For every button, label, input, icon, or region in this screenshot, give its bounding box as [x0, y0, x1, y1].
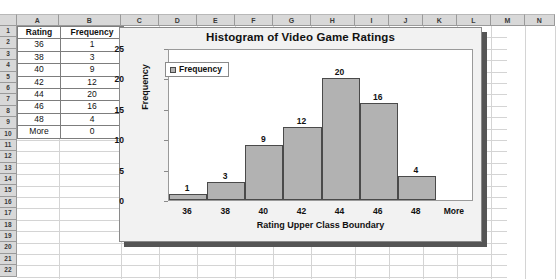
- column-header-i[interactable]: I: [355, 14, 389, 26]
- column-header-a[interactable]: A: [17, 14, 59, 26]
- row-header-column: 12345678910111213141516171819202122: [0, 26, 17, 277]
- row-header-7[interactable]: 7: [0, 94, 17, 105]
- table-row: 4420: [18, 89, 124, 101]
- column-header-c[interactable]: C: [121, 14, 159, 26]
- select-all-corner[interactable]: [0, 14, 17, 26]
- x-axis-tick-label: 42: [297, 206, 306, 216]
- chart-legend[interactable]: Frequency: [165, 62, 229, 77]
- table-cell[interactable]: 36: [18, 39, 61, 51]
- column-header-h[interactable]: H: [311, 14, 355, 26]
- column-header-m[interactable]: M: [491, 14, 525, 26]
- y-axis-tick-mark: [164, 79, 168, 80]
- table-header-cell[interactable]: Rating: [18, 27, 61, 39]
- column-header-n[interactable]: N: [525, 14, 555, 26]
- y-axis-tick-label: 15: [102, 105, 124, 115]
- column-header-e[interactable]: E: [197, 14, 235, 26]
- y-axis-tick-label: 0: [102, 196, 124, 206]
- row-header-4[interactable]: 4: [0, 60, 17, 71]
- table-cell[interactable]: 38: [18, 51, 61, 63]
- histogram-bar[interactable]: [245, 145, 283, 200]
- table-cell[interactable]: 20: [61, 89, 124, 101]
- table-cell[interactable]: More: [18, 126, 61, 138]
- row-header-10[interactable]: 10: [0, 129, 17, 140]
- y-axis-tick-mark: [164, 201, 168, 202]
- x-axis-tick-label: 36: [182, 206, 191, 216]
- chart-title: Histogram of Video Game Ratings: [120, 31, 481, 43]
- grid-vline: [525, 26, 526, 279]
- histogram-bar[interactable]: [360, 103, 398, 200]
- table-cell[interactable]: 40: [18, 64, 61, 76]
- grid-hline: [17, 254, 507, 255]
- y-axis-tick-mark: [164, 140, 168, 141]
- row-header-15[interactable]: 15: [0, 185, 17, 196]
- bar-data-label: 4: [413, 165, 418, 175]
- y-axis-tick-mark: [164, 49, 168, 50]
- row-header-13[interactable]: 13: [0, 163, 17, 174]
- y-axis-tick-label: 25: [102, 44, 124, 54]
- histogram-bar[interactable]: [322, 78, 360, 200]
- x-axis-title: Rating Upper Class Boundary: [168, 220, 473, 230]
- column-header-b[interactable]: B: [59, 14, 121, 26]
- table-cell[interactable]: 4: [61, 113, 124, 125]
- grid-vline: [491, 26, 492, 279]
- table-cell[interactable]: 44: [18, 89, 61, 101]
- x-axis-tick-label: 40: [259, 206, 268, 216]
- legend-label: Frequency: [179, 65, 222, 74]
- y-axis-tick-label: 10: [102, 135, 124, 145]
- histogram-bar[interactable]: [169, 194, 207, 200]
- grid-hline: [17, 277, 507, 278]
- row-header-6[interactable]: 6: [0, 83, 17, 94]
- x-axis-tick-label: 46: [373, 206, 382, 216]
- row-header-11[interactable]: 11: [0, 140, 17, 151]
- column-header-g[interactable]: G: [273, 14, 311, 26]
- histogram-bar[interactable]: [283, 127, 321, 200]
- row-header-17[interactable]: 17: [0, 208, 17, 219]
- row-header-9[interactable]: 9: [0, 117, 17, 128]
- x-axis-tick-label: 44: [335, 206, 344, 216]
- bar-data-label: 3: [223, 171, 228, 181]
- row-header-2[interactable]: 2: [0, 37, 17, 48]
- row-header-20[interactable]: 20: [0, 242, 17, 253]
- bar-data-label: 1: [185, 183, 190, 193]
- row-header-12[interactable]: 12: [0, 151, 17, 162]
- row-header-5[interactable]: 5: [0, 72, 17, 83]
- bar-data-label: 16: [373, 92, 382, 102]
- row-header-3[interactable]: 3: [0, 49, 17, 60]
- legend-swatch-icon: [170, 67, 176, 73]
- table-header-row: RatingFrequency: [18, 27, 124, 39]
- grid-hline: [17, 265, 507, 266]
- x-axis-tick-label: More: [444, 206, 464, 216]
- row-header-21[interactable]: 21: [0, 254, 17, 265]
- histogram-bar[interactable]: [207, 182, 245, 200]
- y-axis-tick-label: 20: [102, 74, 124, 84]
- bar-data-label: 12: [297, 116, 306, 126]
- bar-data-label: 9: [261, 134, 266, 144]
- x-axis-tick-label: 38: [220, 206, 229, 216]
- row-header-22[interactable]: 22: [0, 265, 17, 276]
- row-header-18[interactable]: 18: [0, 220, 17, 231]
- row-header-8[interactable]: 8: [0, 106, 17, 117]
- table-cell[interactable]: 42: [18, 76, 61, 88]
- x-axis-tick-label: 48: [411, 206, 420, 216]
- column-header-row: ABCDEFGHIJKLMN: [0, 14, 555, 26]
- bar-data-label: 20: [335, 67, 344, 77]
- table-cell[interactable]: 46: [18, 101, 61, 113]
- row-header-14[interactable]: 14: [0, 174, 17, 185]
- column-header-d[interactable]: D: [159, 14, 197, 26]
- y-axis-title: Frequency: [140, 52, 150, 122]
- row-header-16[interactable]: 16: [0, 197, 17, 208]
- row-header-19[interactable]: 19: [0, 231, 17, 242]
- histogram-chart[interactable]: Histogram of Video Game Ratings Frequenc…: [119, 27, 482, 242]
- column-header-j[interactable]: J: [389, 14, 423, 26]
- y-axis-tick-label: 5: [102, 166, 124, 176]
- y-axis-tick-mark: [164, 171, 168, 172]
- table-header-cell[interactable]: Frequency: [61, 27, 124, 39]
- column-header-f[interactable]: F: [235, 14, 273, 26]
- column-header-l[interactable]: L: [457, 14, 491, 26]
- row-header-1[interactable]: 1: [0, 26, 17, 37]
- column-header-k[interactable]: K: [423, 14, 457, 26]
- table-row: 484: [18, 113, 124, 125]
- histogram-bar[interactable]: [398, 176, 436, 200]
- table-cell[interactable]: 48: [18, 113, 61, 125]
- y-axis-tick-mark: [164, 110, 168, 111]
